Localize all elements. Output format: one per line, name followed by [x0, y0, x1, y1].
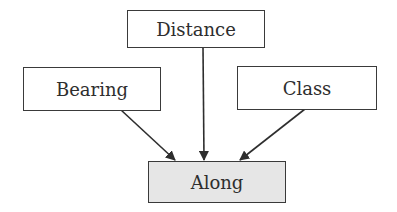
node-along: Along	[148, 161, 286, 203]
node-distance: Distance	[127, 10, 265, 48]
node-class-label: Class	[283, 78, 332, 99]
node-bearing: Bearing	[23, 67, 161, 111]
edge-distance-along	[203, 47, 204, 160]
node-class: Class	[237, 66, 377, 110]
node-bearing-label: Bearing	[56, 79, 128, 100]
edge-bearing-along	[121, 110, 175, 160]
node-along-label: Along	[191, 172, 244, 193]
node-distance-label: Distance	[156, 19, 236, 40]
edge-class-along	[240, 109, 305, 160]
